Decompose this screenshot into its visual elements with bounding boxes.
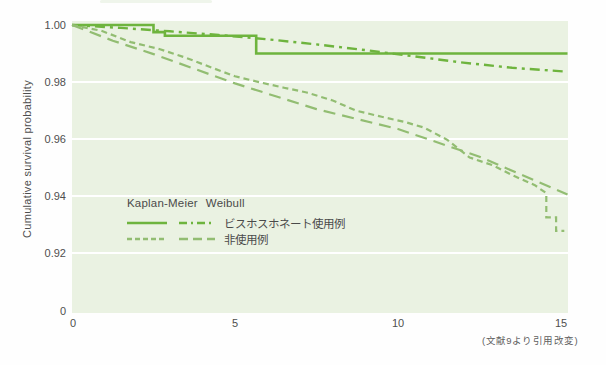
x-tick-label: 10 <box>392 317 404 329</box>
shortdash-line-swatch-icon <box>127 236 167 242</box>
legend-col-kaplan-meier: Kaplan-Meier <box>127 197 198 209</box>
x-tick-label: 0 <box>70 317 76 329</box>
legend-row-bisphosphonate: ビスホスホネート使用例 <box>127 216 345 230</box>
plot-area <box>0 0 606 365</box>
km-survival-figure: Cumulative survival probability 1.000.98… <box>0 0 606 365</box>
source-caption: (文献9より引用改変) <box>482 333 578 347</box>
x-tick-label: 5 <box>232 317 238 329</box>
y-tick-label: 0.96 <box>45 133 66 145</box>
y-tick-label: 0.94 <box>45 190 66 202</box>
dashdot-line-swatch-icon <box>179 220 215 226</box>
legend-col-weibull: Weibull <box>206 197 245 209</box>
legend-label-bisphosphonate: ビスホスホネート使用例 <box>224 215 345 231</box>
y-tick-label: 1.00 <box>45 19 66 31</box>
legend-header: Kaplan-MeierWeibull <box>127 197 345 209</box>
x-tick-label: 15 <box>555 317 567 329</box>
y-axis-title: Cumulative survival probability <box>21 80 33 238</box>
y-tick-label: 0.92 <box>45 247 66 259</box>
legend: Kaplan-MeierWeibull ビスホスホネート使用例 非使用例 <box>127 197 345 246</box>
longdash-line-swatch-icon <box>179 236 215 242</box>
solid-line-swatch-icon <box>127 220 167 226</box>
legend-label-nonuse: 非使用例 <box>224 231 268 247</box>
y-tick-label: 0.98 <box>45 76 66 88</box>
legend-row-nonuse: 非使用例 <box>127 232 345 246</box>
y-tick-label: 0 <box>60 305 66 317</box>
